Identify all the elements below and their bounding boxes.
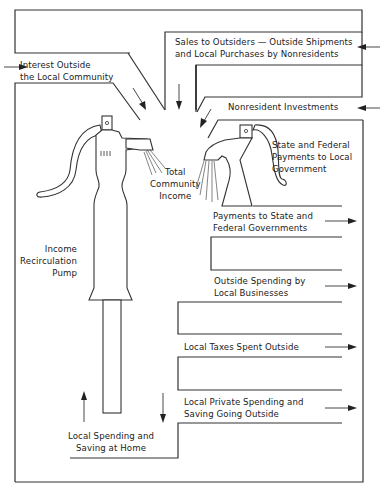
arrow-down-left-icon <box>200 109 211 128</box>
arrow-down-icon <box>176 84 182 110</box>
income-recirculation-diagram: Interest Outside the Local Community Sal… <box>0 0 392 486</box>
interest-label: Interest Outside the Local Community <box>20 59 113 83</box>
pump-label: Income Recirculation Pump <box>15 243 77 279</box>
arrow-left-icon <box>357 105 380 111</box>
arrow-right-icon <box>325 405 357 411</box>
home-arrows <box>81 391 166 423</box>
payments-to-state-label: Payments to State and Federal Government… <box>213 210 313 234</box>
outside-spending-business-label: Outside Spending by Local Businesses <box>214 275 305 299</box>
home-spending-label: Local Spending and Saving at Home <box>68 430 154 454</box>
total-community-income-label: Total Community Income <box>150 166 201 202</box>
local-taxes-outside-label: Local Taxes Spent Outside <box>184 341 299 353</box>
sales-label: Sales to Outsiders — Outside Shipments a… <box>175 36 353 60</box>
arrow-right-icon <box>325 218 357 224</box>
outflow-arrows <box>325 218 357 411</box>
arrow-down-icon <box>160 393 166 423</box>
private-spending-outside-label: Local Private Spending and Saving Going … <box>184 396 304 420</box>
arrow-right-icon <box>325 344 357 350</box>
state-federal-payments-label: State and Federal Payments to Local Gove… <box>272 139 352 175</box>
arrow-up-icon <box>81 391 87 422</box>
arrow-left-icon <box>357 44 380 50</box>
arrow-right-icon <box>325 283 357 289</box>
interest-channel-wall <box>128 53 165 110</box>
nonresident-investments-label: Nonresident Investments <box>228 101 338 113</box>
arrow-down-right-icon <box>133 88 146 110</box>
